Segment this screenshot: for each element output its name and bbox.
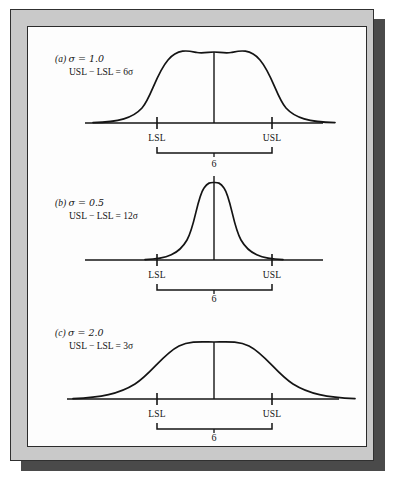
panel-b-usl-label: USL bbox=[263, 270, 282, 280]
panel-b-bracket bbox=[157, 284, 272, 290]
panel-c-bracket-label: 6 bbox=[212, 432, 217, 443]
panel-a-usl-label: USL bbox=[263, 133, 282, 143]
panel-c-lsl-label: LSL bbox=[148, 409, 166, 419]
panel-a: (a) σ = 1.0 USL − LSL = 6σ LSL USL bbox=[27, 26, 367, 166]
panel-b-plot: LSL USL 6 bbox=[27, 164, 367, 302]
panel-c-usl-label: USL bbox=[263, 409, 282, 419]
panel-c: (c) σ = 2.0 USL − LSL = 3σ LSL USL 6 bbox=[27, 296, 367, 444]
panel-a-bracket bbox=[157, 147, 272, 153]
panel-c-bracket bbox=[157, 423, 272, 429]
panel-c-plot: LSL USL 6 bbox=[27, 296, 367, 444]
panel-stack: (a) σ = 1.0 USL − LSL = 6σ LSL USL bbox=[27, 26, 367, 447]
panel-b: (b) σ = 0.5 USL − LSL = 12σ LSL USL 6 bbox=[27, 164, 367, 299]
panel-b-lsl-label: LSL bbox=[148, 270, 166, 280]
figure-root: (a) σ = 1.0 USL − LSL = 6σ LSL USL bbox=[0, 0, 393, 486]
panel-a-lsl-label: LSL bbox=[148, 133, 166, 143]
panel-a-plot: LSL USL 6 bbox=[27, 26, 367, 166]
